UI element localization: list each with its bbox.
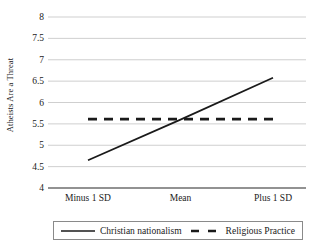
y-tick-label: 4.5 (0, 162, 44, 172)
gridlines (48, 17, 306, 188)
plot-area (48, 17, 306, 188)
series-lines (88, 78, 273, 161)
line-chart: Atheists Are a Threat 44.555.566.577.58 … (0, 0, 319, 245)
y-tick-label: 4 (0, 183, 44, 193)
y-tick-label: 7 (0, 55, 44, 65)
y-tick-label: 8 (0, 12, 44, 22)
legend-item: Christian nationalism (61, 226, 182, 236)
y-axis-tick-labels: 44.555.566.577.58 (0, 17, 44, 188)
legend-label: Christian nationalism (100, 226, 182, 236)
series-line-0 (88, 78, 273, 161)
y-tick-label: 5 (0, 140, 44, 150)
y-tick-label: 5.5 (0, 119, 44, 129)
y-tick-label: 7.5 (0, 33, 44, 43)
chart-legend: Christian nationalismReligious Practice (53, 221, 303, 240)
x-tick-label: Plus 1 SD (254, 193, 292, 203)
legend-item: Religious Practice (191, 226, 295, 236)
legend-label: Religious Practice (226, 226, 295, 236)
x-tick-label: Minus 1 SD (65, 193, 111, 203)
legend-solid-line-icon (61, 228, 95, 234)
y-tick-label: 6.5 (0, 76, 44, 86)
x-axis-tick-labels: Minus 1 SDMeanPlus 1 SD (48, 193, 306, 209)
plot-svg (48, 17, 306, 188)
x-tick-label: Mean (170, 193, 192, 203)
legend-dashed-line-icon (191, 228, 221, 234)
y-tick-label: 6 (0, 98, 44, 108)
